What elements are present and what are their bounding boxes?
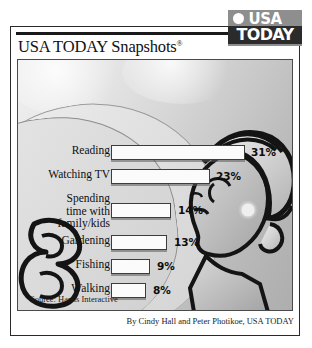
bar-label: Gardening — [17, 234, 110, 247]
globe-icon — [233, 13, 244, 24]
bar-value: 23% — [216, 169, 241, 183]
background-highlight-right — [122, 59, 242, 104]
background-highlight-left — [17, 59, 128, 116]
bar-value: 13% — [174, 235, 199, 249]
logo-today-text: TODAY — [228, 26, 302, 44]
byline: By Cindy Hall and Peter Photikoe, USA TO… — [127, 316, 295, 326]
bar-reading — [111, 145, 245, 160]
series-title-text: USA TODAY Snapshots — [18, 37, 177, 56]
bar-chart: Reading 31% Watching TV 23% Spending tim… — [18, 144, 293, 306]
bar-label: Watching TV — [17, 168, 110, 181]
bar-value: 9% — [157, 259, 175, 273]
source-note: Source: Harris Interactive — [30, 294, 118, 304]
bar-fishing — [111, 259, 150, 274]
table-row: Reading 31% — [18, 144, 293, 166]
table-row: Gardening 13% — [18, 234, 293, 256]
table-row: Fishing 9% — [18, 258, 293, 280]
bar-label: Walking — [17, 282, 110, 295]
bar-label: Fishing — [17, 258, 110, 271]
registered-mark: ® — [177, 39, 183, 48]
bar-watching-tv — [111, 169, 210, 184]
bar-spending-time-family — [111, 203, 171, 218]
bar-value: 8% — [153, 283, 171, 297]
bar-gardening — [111, 235, 167, 250]
bar-value: 14% — [178, 203, 203, 217]
snapshot-infographic: USA TODAY Snapshots® USA TODAY — [0, 0, 312, 348]
chart-panel: Reading 31% Watching TV 23% Spending tim… — [17, 59, 293, 311]
bar-label: Reading — [17, 144, 110, 157]
bar-label: Spending time with family/kids — [17, 192, 110, 230]
bar-value: 31% — [251, 145, 276, 159]
table-row: Spending time with family/kids 14% — [18, 192, 293, 232]
page-title: USA TODAY Snapshots® — [18, 37, 182, 57]
table-row: Watching TV 23% — [18, 168, 293, 190]
usa-today-logo: USA TODAY — [228, 10, 302, 46]
